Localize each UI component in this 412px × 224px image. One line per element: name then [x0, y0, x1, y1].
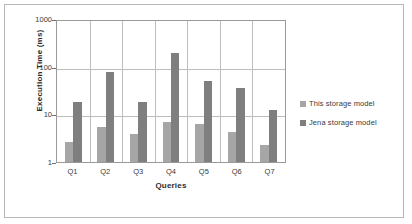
bar-group: [90, 21, 123, 162]
bar-group: [220, 21, 253, 162]
bar-groups: [57, 21, 285, 162]
legend-label: This storage model: [309, 99, 375, 108]
bar-group: [252, 21, 285, 162]
x-axis-title: Queries: [56, 181, 286, 190]
plot-area: [56, 20, 286, 163]
bar: [73, 102, 81, 162]
bar: [260, 145, 268, 162]
bar: [236, 88, 244, 162]
x-axis-tick-label: Q5: [187, 166, 220, 180]
y-axis-tick-mark: [52, 163, 56, 164]
bar: [171, 53, 179, 162]
legend-label: Jena storage model: [309, 118, 377, 127]
chart-figure: Execution Time (ms) 1101001000 Q1Q2Q3Q4Q…: [0, 0, 412, 224]
y-axis-tick-label: 1: [18, 159, 52, 167]
bar: [138, 102, 146, 162]
y-axis: Execution Time (ms) 1101001000: [14, 20, 52, 163]
bar-group: [187, 21, 220, 162]
x-axis-tick-label: Q7: [253, 166, 286, 180]
x-axis-tick-label: Q1: [56, 166, 89, 180]
bar-group: [57, 21, 90, 162]
bar: [269, 110, 277, 162]
x-axis-tick-label: Q2: [89, 166, 122, 180]
x-axis-tick-label: Q3: [122, 166, 155, 180]
legend-swatch-this-storage-model: [300, 101, 306, 107]
bar: [163, 122, 171, 162]
y-axis-tick-label: 1000: [18, 16, 52, 24]
bar: [97, 127, 105, 162]
bar: [65, 142, 73, 162]
bar: [130, 134, 138, 162]
chart-legend: This storage modelJena storage model: [300, 99, 400, 137]
bar-group: [155, 21, 188, 162]
bar-group: [122, 21, 155, 162]
y-axis-tick-label: 10: [18, 111, 52, 119]
legend-item[interactable]: This storage model: [300, 99, 400, 108]
y-axis-tick-label: 100: [18, 64, 52, 72]
legend-item[interactable]: Jena storage model: [300, 118, 400, 127]
legend-swatch-jena-storage-model: [300, 120, 306, 126]
x-axis-tick-label: Q4: [155, 166, 188, 180]
bar: [228, 132, 236, 162]
bar: [195, 124, 203, 162]
x-axis-tick-label: Q6: [220, 166, 253, 180]
bar: [106, 72, 114, 162]
bar: [204, 81, 212, 162]
x-axis-tick-labels: Q1Q2Q3Q4Q5Q6Q7: [56, 166, 286, 180]
